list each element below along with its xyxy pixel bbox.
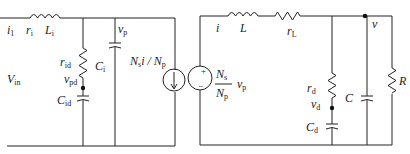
input-inductor-icon <box>30 15 60 19</box>
secondary-bottom-wire <box>200 90 392 145</box>
svg-text:rd: rd <box>307 81 316 96</box>
left-circuit: i1 ri Li Vin rid vpd Cid Ci vp <box>0 15 175 147</box>
svg-text:Ci: Ci <box>95 59 106 74</box>
load-resistor-icon <box>388 68 396 93</box>
circuit-diagram: i1 ri Li Vin rid vpd Cid Ci vp + − Nsi /… <box>0 0 410 154</box>
svg-text:Vin: Vin <box>7 72 21 87</box>
output-damping-node-dot <box>330 106 334 110</box>
output-damping-resistor-icon <box>328 73 336 98</box>
secondary-top-wire <box>200 16 228 66</box>
svg-text:−: − <box>198 81 203 91</box>
svg-text:v: v <box>372 17 378 31</box>
svg-text:vp: vp <box>118 22 127 37</box>
inductor-resistance-icon <box>275 12 300 20</box>
damping-resistor-icon <box>79 48 87 78</box>
svg-text:rid: rid <box>60 55 71 70</box>
svg-text:C: C <box>345 91 354 105</box>
svg-text:vpd: vpd <box>64 72 77 87</box>
svg-text:Ns: Ns <box>215 67 227 82</box>
svg-text:i1: i1 <box>7 23 14 38</box>
primary-bottom-wire <box>7 92 175 146</box>
svg-text:ri: ri <box>26 23 34 38</box>
svg-text:+: + <box>201 66 206 76</box>
svg-text:Np: Np <box>215 86 228 101</box>
current-arrow-down-icon <box>171 72 177 89</box>
svg-text:vd: vd <box>311 97 320 112</box>
svg-text:vp: vp <box>237 77 246 92</box>
svg-text:R: R <box>398 74 407 88</box>
svg-text:Cid: Cid <box>57 93 71 108</box>
right-circuit: i L rL v rd vd Cd C R <box>200 12 407 145</box>
output-inductor-icon <box>228 13 258 17</box>
svg-text:Cd: Cd <box>306 120 318 135</box>
svg-text:rL: rL <box>287 24 297 39</box>
transformer-model: + − Nsi / Np Ns Np vp <box>129 54 246 101</box>
svg-text:L: L <box>239 21 247 35</box>
svg-text:i: i <box>216 21 219 35</box>
svg-text:Nsi / Np: Nsi / Np <box>129 54 166 69</box>
damping-node-dot <box>81 86 85 90</box>
svg-text:Li: Li <box>44 23 55 38</box>
